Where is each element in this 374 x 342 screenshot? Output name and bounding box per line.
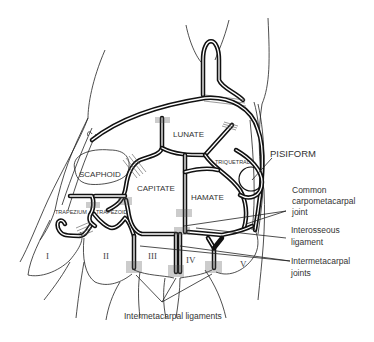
label-trapezoid: TRAPEZOID (96, 209, 128, 215)
label-intermetacarpal-ligaments: Intermetacarpal ligaments (124, 311, 222, 321)
label-mc-4: IV (186, 255, 196, 265)
label-pisiform: PISIFORM (270, 148, 316, 159)
label-intermetacarpal-joints-2: joints (290, 268, 311, 278)
label-triquetral: TRIQUETRAL (215, 159, 250, 165)
wrist-anatomy-diagram: LUNATE TRIQUETRAL PISIFORM SCAPHOID CAPI… (0, 0, 374, 342)
label-mc-2: II (103, 251, 109, 261)
label-mc-5: V (240, 259, 247, 269)
label-interosseous-2: ligament (291, 237, 324, 247)
label-trapezium: TRAPEZIUM (55, 209, 87, 215)
label-lunate: LUNATE (173, 130, 204, 139)
label-mc-1: I (46, 251, 49, 261)
label-hamate: HAMATE (191, 193, 224, 202)
leader-lines (136, 158, 290, 302)
label-common-cmc-2: carpometacarpal (292, 196, 355, 206)
label-interosseous-1: Interosseous (291, 225, 340, 235)
label-common-cmc-3: joint (291, 207, 308, 217)
label-mc-3: III (148, 251, 157, 261)
label-scaphoid: SCAPHOID (79, 170, 121, 179)
callout-labels: Common carpometacarpal joint Interosseou… (124, 185, 355, 321)
scaphoid-bone (74, 150, 146, 185)
label-capitate: CAPITATE (137, 184, 175, 193)
label-common-cmc-1: Common (292, 185, 327, 195)
label-intermetacarpal-joints-1: Intermetacarpal (291, 256, 350, 266)
